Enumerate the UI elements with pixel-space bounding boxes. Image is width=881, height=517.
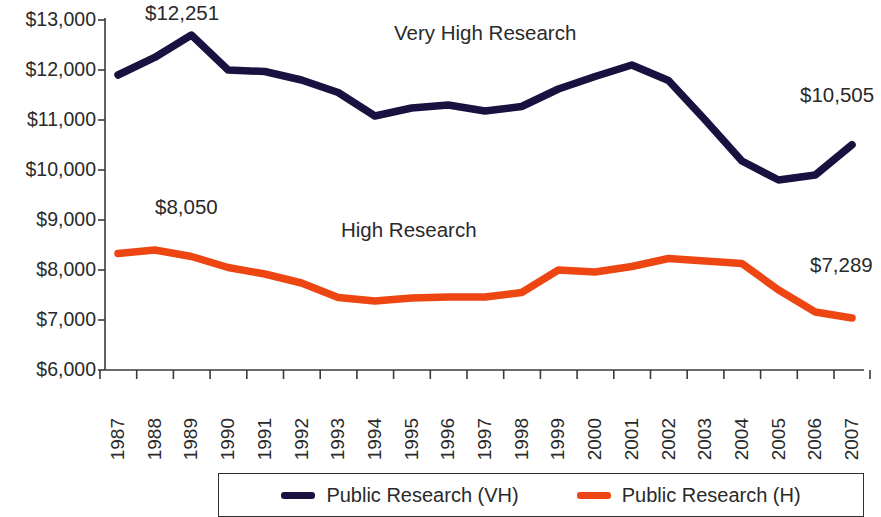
series-line xyxy=(118,35,852,180)
legend-color-swatch xyxy=(577,492,611,499)
x-axis-tick-label: 1993 xyxy=(328,418,347,460)
x-axis-tick-label: 1995 xyxy=(402,418,421,460)
x-axis-tick-label: 1991 xyxy=(255,418,274,460)
x-axis-tick-label: 1994 xyxy=(365,418,384,460)
x-axis-tick-label: 1989 xyxy=(181,418,200,460)
x-axis-tick-label: 1990 xyxy=(218,418,237,460)
axis-lines xyxy=(105,18,864,370)
legend-entry: Public Research (VH) xyxy=(281,485,518,505)
x-axis-tick-label: 1998 xyxy=(512,418,531,460)
x-axis-tick-label: 2007 xyxy=(842,418,861,460)
x-axis-tick-label: 2003 xyxy=(695,418,714,460)
x-axis-tick-label: 2000 xyxy=(585,418,604,460)
very-high-research-label: Very High Research xyxy=(394,22,576,43)
x-axis-tick-label: 2005 xyxy=(769,418,788,460)
x-axis-tick-label: 1996 xyxy=(438,418,457,460)
x-axis-tick-label: 1988 xyxy=(145,418,164,460)
x-axis-tick-label: 1987 xyxy=(108,418,127,460)
legend: Public Research (VH)Public Research (H) xyxy=(218,473,864,517)
x-axis-tick-label: 1997 xyxy=(475,418,494,460)
x-axis-tick-label: 1999 xyxy=(548,418,567,460)
x-axis: 1987198819891990199119921993199419951996… xyxy=(0,378,881,460)
x-axis-tick-label: 1992 xyxy=(292,418,311,460)
line-chart: $13,000$12,000$11,000$10,000$9,000$8,000… xyxy=(0,0,881,517)
legend-color-swatch xyxy=(281,492,315,499)
annotation-h-end: $7,289 xyxy=(810,254,873,275)
annotation-vh-end: $10,505 xyxy=(800,84,874,105)
x-axis-tick-label: 2001 xyxy=(622,418,641,460)
annotation-vh-peak: $12,251 xyxy=(145,2,219,23)
legend-entry: Public Research (H) xyxy=(577,485,801,505)
high-research-label: High Research xyxy=(341,219,477,240)
legend-label: Public Research (VH) xyxy=(326,485,518,505)
series-line xyxy=(118,250,852,318)
x-axis-tick-label: 2006 xyxy=(805,418,824,460)
x-axis-tick-label: 2004 xyxy=(732,418,751,460)
series-lines xyxy=(118,35,852,318)
x-axis-tick-label: 2002 xyxy=(659,418,678,460)
annotation-h-start: $8,050 xyxy=(155,196,218,217)
legend-label: Public Research (H) xyxy=(622,485,801,505)
